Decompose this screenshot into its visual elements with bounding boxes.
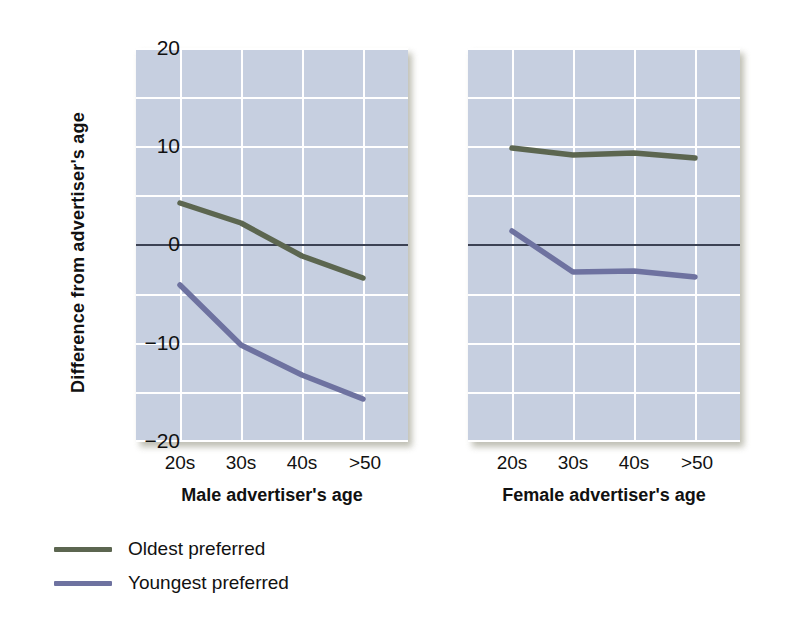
plot-area-female (468, 48, 740, 442)
ytick-20: 20 (120, 36, 180, 60)
legend-label-youngest-preferred: Youngest preferred (128, 572, 289, 594)
xtick-over50: >50 (669, 452, 725, 474)
x-axis-title-female: Female advertiser's age (468, 485, 740, 506)
ytick-m10: −10 (120, 331, 180, 355)
legend-item-youngest-preferred: Youngest preferred (54, 566, 289, 600)
line-youngest-preferred-female (512, 231, 695, 277)
legend-label-oldest-preferred: Oldest preferred (128, 538, 265, 560)
legend: Oldest preferred Youngest preferred (54, 532, 289, 600)
y-axis-title: Difference from advertiser's age (68, 53, 89, 453)
legend-item-oldest-preferred: Oldest preferred (54, 532, 289, 566)
line-youngest-preferred-male (180, 285, 363, 399)
xtick-40s: 40s (606, 452, 662, 474)
legend-swatch-youngest-preferred (54, 581, 112, 586)
xtick-30s: 30s (545, 452, 601, 474)
series-lines-female (468, 48, 740, 442)
ytick-10: 10 (120, 134, 180, 158)
line-oldest-preferred-female (512, 148, 695, 158)
x-axis-title-male: Male advertiser's age (136, 485, 408, 506)
xtick-30s: 30s (213, 452, 269, 474)
ytick-m20: −20 (120, 429, 180, 453)
xtick-20s: 20s (484, 452, 540, 474)
line-oldest-preferred-male (180, 203, 363, 278)
xtick-20s: 20s (152, 452, 208, 474)
xtick-40s: 40s (274, 452, 330, 474)
figure: Difference from advertiser's age 20 10 (0, 0, 805, 626)
xtick-over50: >50 (337, 452, 393, 474)
ytick-0: 0 (120, 232, 180, 256)
legend-swatch-oldest-preferred (54, 547, 112, 552)
